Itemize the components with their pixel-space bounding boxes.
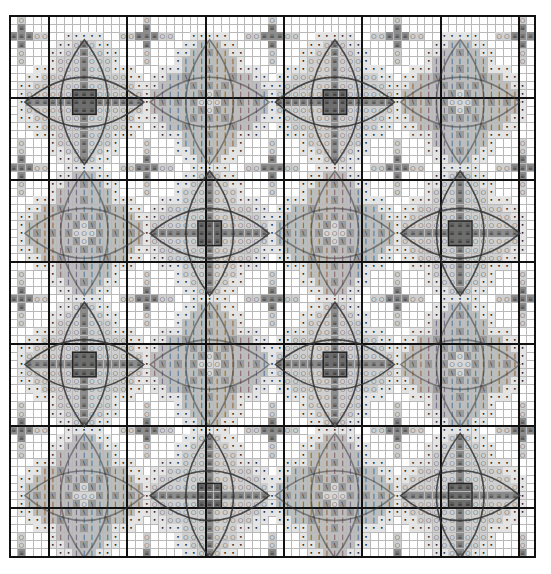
major-grid-line-horizontal	[10, 507, 535, 509]
major-grid-line-horizontal	[10, 97, 535, 99]
empty-cell	[527, 549, 535, 558]
major-grid-line-horizontal	[10, 179, 535, 181]
major-grid-line-horizontal	[10, 261, 535, 263]
major-grid-line-horizontal	[10, 425, 535, 427]
major-grid-line-horizontal	[10, 343, 535, 345]
